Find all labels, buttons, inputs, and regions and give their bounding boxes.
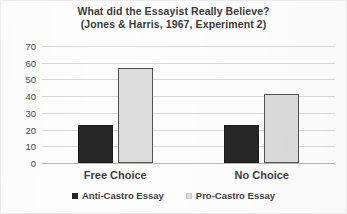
x-axis-line: 0 <box>42 163 335 164</box>
bar-no-choice-pro-castro <box>264 94 299 163</box>
legend-item-anti-castro: Anti-Castro Essay <box>72 190 164 201</box>
y-tick-label-70: 70 <box>25 41 36 52</box>
legend-label-anti-castro: Anti-Castro Essay <box>82 190 164 201</box>
y-tick-label-0: 0 <box>31 158 36 169</box>
bar-chart-figure: What did the Essayist Really Believe? (J… <box>0 0 347 214</box>
legend-item-pro-castro: Pro-Castro Essay <box>186 190 275 201</box>
legend-label-pro-castro: Pro-Castro Essay <box>196 190 275 201</box>
bar-group-bars <box>189 46 336 163</box>
bar-group-no-choice: No Choice <box>189 46 336 163</box>
light-square-swatch-icon <box>186 193 192 199</box>
x-category-label-no-choice: No Choice <box>189 169 336 181</box>
x-category-label-free-choice: Free Choice <box>42 169 189 181</box>
bar-free-choice-anti-castro <box>78 125 113 163</box>
bar-group-bars <box>42 46 189 163</box>
y-tick-label-10: 10 <box>25 141 36 152</box>
y-tick-label-40: 40 <box>25 91 36 102</box>
chart-subtitle: (Jones & Harris, 1967, Experiment 2) <box>0 18 347 31</box>
bar-group-free-choice: Free Choice <box>42 46 189 163</box>
y-tick-label-20: 20 <box>25 124 36 135</box>
chart-title-block: What did the Essayist Really Believe? (J… <box>0 5 347 30</box>
dark-square-swatch-icon <box>72 193 78 199</box>
y-tick-label-50: 50 <box>25 74 36 85</box>
chart-legend: Anti-Castro Essay Pro-Castro Essay <box>0 190 347 201</box>
y-tick-label-60: 60 <box>25 57 36 68</box>
y-tick-label-30: 30 <box>25 107 36 118</box>
chart-title: What did the Essayist Really Believe? <box>0 5 347 18</box>
bar-free-choice-pro-castro <box>118 68 153 163</box>
plot-area: 70 60 50 40 30 20 10 0 Free Choice <box>42 46 335 163</box>
bar-no-choice-anti-castro <box>224 125 259 163</box>
